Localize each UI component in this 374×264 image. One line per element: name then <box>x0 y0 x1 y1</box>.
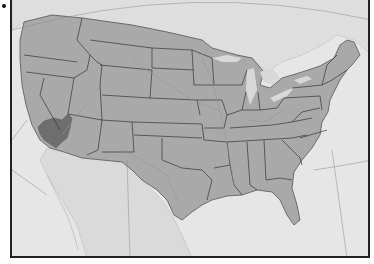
map-frame <box>10 0 370 258</box>
us-map <box>12 0 368 258</box>
figure-bullet-marker <box>2 4 6 8</box>
